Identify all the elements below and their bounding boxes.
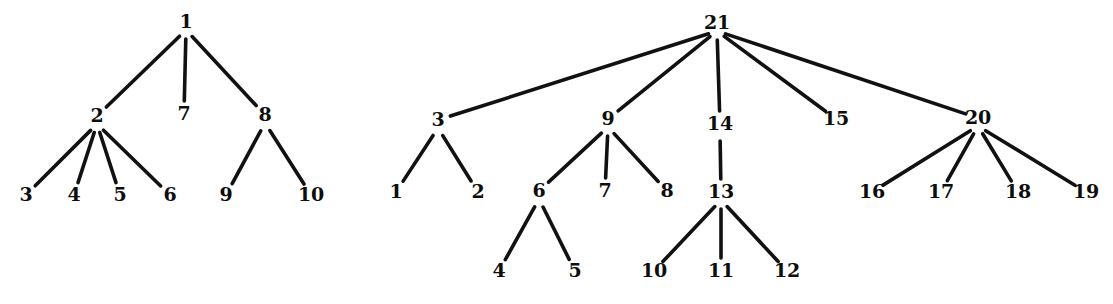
tree-edge xyxy=(505,207,534,260)
tree-edge xyxy=(35,130,90,185)
tree-edge xyxy=(450,34,708,116)
tree-node-label-10[interactable]: 10 xyxy=(641,259,667,281)
tree-edge xyxy=(270,131,304,184)
tree-edge xyxy=(720,141,721,179)
tree-edge xyxy=(192,37,256,106)
tree-node-label-18[interactable]: 18 xyxy=(1005,180,1031,202)
tree-node-label-13[interactable]: 13 xyxy=(708,180,734,202)
tree-edge xyxy=(543,207,569,259)
tree-node-label-7[interactable]: 7 xyxy=(599,179,612,201)
tree-edge xyxy=(726,34,966,114)
tree-canvas: 1278345691021391415201267813161718194510… xyxy=(0,0,1113,304)
tree-node-label-10[interactable]: 10 xyxy=(298,183,324,205)
tree-edge xyxy=(549,133,602,182)
edge-group-right-tree xyxy=(403,34,1075,262)
tree-node-label-3[interactable]: 3 xyxy=(20,183,33,205)
tree-node-label-7[interactable]: 7 xyxy=(178,102,191,124)
tree-node-label-1[interactable]: 1 xyxy=(390,180,403,202)
tree-node-label-16[interactable]: 16 xyxy=(859,180,885,202)
tree-edge xyxy=(443,136,471,181)
tree-node-label-3[interactable]: 3 xyxy=(432,108,445,130)
tree-node-label-21[interactable]: 21 xyxy=(704,11,730,33)
tree-node-label-5[interactable]: 5 xyxy=(114,183,127,205)
tree-node-label-11[interactable]: 11 xyxy=(708,259,734,281)
tree-node-label-9[interactable]: 9 xyxy=(602,107,615,129)
tree-edge xyxy=(663,207,715,262)
tree-node-label-8[interactable]: 8 xyxy=(661,179,674,201)
tree-node-label-2[interactable]: 2 xyxy=(472,180,485,202)
tree-edge xyxy=(232,131,261,184)
tree-edge xyxy=(106,36,179,107)
tree-diagram-figure: 1278345691021391415201267813161718194510… xyxy=(0,0,1113,304)
tree-node-label-17[interactable]: 17 xyxy=(928,180,954,202)
tree-node-label-6[interactable]: 6 xyxy=(164,183,177,205)
tree-edge xyxy=(103,130,160,186)
tree-node-label-15[interactable]: 15 xyxy=(823,107,849,129)
edges-layer xyxy=(35,34,1075,262)
tree-node-label-14[interactable]: 14 xyxy=(707,112,733,134)
tree-edge xyxy=(883,131,970,185)
tree-edge xyxy=(606,136,608,178)
tree-edge xyxy=(184,39,185,101)
node-group-left-tree: 12783456910 xyxy=(20,10,324,205)
tree-node-label-8[interactable]: 8 xyxy=(259,103,272,125)
tree-node-label-20[interactable]: 20 xyxy=(965,106,991,128)
tree-node-label-9[interactable]: 9 xyxy=(220,183,233,205)
tree-edge xyxy=(724,36,825,111)
tree-node-label-6[interactable]: 6 xyxy=(533,179,546,201)
tree-edge xyxy=(614,134,658,182)
tree-edge xyxy=(983,134,1012,181)
tree-node-label-4[interactable]: 4 xyxy=(68,183,81,205)
tree-edge xyxy=(727,207,778,262)
tree-node-label-2[interactable]: 2 xyxy=(91,104,104,126)
tree-node-label-4[interactable]: 4 xyxy=(493,259,506,281)
tree-node-label-5[interactable]: 5 xyxy=(569,259,582,281)
tree-node-label-12[interactable]: 12 xyxy=(774,259,800,281)
tree-node-label-19[interactable]: 19 xyxy=(1073,180,1099,202)
tree-edge xyxy=(403,136,433,182)
tree-edge xyxy=(717,40,719,111)
tree-node-label-1[interactable]: 1 xyxy=(180,10,193,32)
